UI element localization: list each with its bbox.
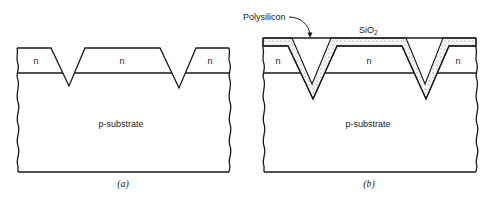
- panel-b-substrate-label: p-substrate: [345, 119, 390, 129]
- panel-b-n-right-label: n: [455, 56, 460, 66]
- v-groove-isolation-diagram: n n n p-substrate (a) n n n p-substrate …: [0, 0, 491, 197]
- polysilicon-label: Polysilicon: [243, 12, 286, 22]
- panel-a-caption: (a): [117, 178, 129, 190]
- panel-b-n-left-label: n: [275, 56, 280, 66]
- panel-a-n-middle-label: n: [119, 56, 124, 66]
- polysilicon-arrowhead-icon: [308, 33, 313, 39]
- panel-a-substrate-label: p-substrate: [98, 119, 143, 129]
- panel-b-polysilicon-layer: [263, 38, 476, 99]
- panel-b-left-break-edge: [263, 38, 265, 172]
- polysilicon-leader-arrow: [289, 17, 310, 35]
- panel-a-right-break-edge: [229, 48, 231, 172]
- panel-b: n n n p-substrate (b) Polysilicon SiO2: [243, 12, 478, 190]
- panel-a: n n n p-substrate (a): [17, 48, 231, 190]
- panel-a-n-left-label: n: [33, 56, 38, 66]
- panel-a-left-break-edge: [17, 48, 19, 172]
- sio2-label: SiO2: [359, 25, 378, 36]
- panel-b-right-break-edge: [476, 38, 478, 172]
- panel-b-caption: (b): [363, 178, 375, 190]
- panel-b-n-middle-label: n: [366, 56, 371, 66]
- panel-a-grooved-surface: [17, 48, 229, 88]
- panel-a-n-right-label: n: [207, 56, 212, 66]
